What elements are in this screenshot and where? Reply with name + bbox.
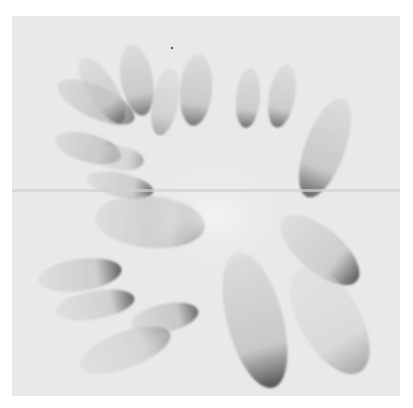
- center-highlight: [145, 160, 285, 270]
- fold-line: [12, 189, 400, 192]
- ink-speck: [171, 47, 173, 49]
- artwork-image: [0, 0, 413, 408]
- petal-painting: [0, 0, 413, 408]
- petal: [288, 92, 361, 203]
- petal: [177, 53, 215, 128]
- petal: [233, 67, 262, 129]
- petal: [264, 62, 301, 130]
